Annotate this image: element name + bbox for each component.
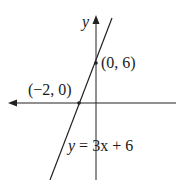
point-label-neg2-0: (−2, 0) xyxy=(28,82,72,98)
point-label-0-6: (0, 6) xyxy=(101,55,136,71)
equation-y: y xyxy=(68,137,75,154)
point-0-6 xyxy=(94,61,98,65)
y-axis-up-arrow-icon xyxy=(93,15,100,24)
line-y-3x-plus-6 xyxy=(50,18,112,180)
equation-label: y = 3x + 6 xyxy=(68,138,133,154)
point-neg2-0 xyxy=(77,101,81,105)
y-axis-label: y xyxy=(82,14,89,30)
equation-rest: = 3x + 6 xyxy=(79,137,133,154)
x-axis-left-arrow-icon xyxy=(8,100,17,107)
